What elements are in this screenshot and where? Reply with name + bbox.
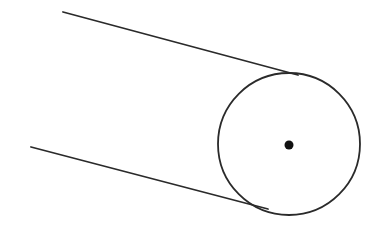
upper-tangent-line [63, 12, 298, 75]
circle-with-tangent-lines-diagram [0, 0, 382, 226]
center-point-dot [285, 141, 294, 150]
lower-tangent-line [31, 147, 268, 209]
